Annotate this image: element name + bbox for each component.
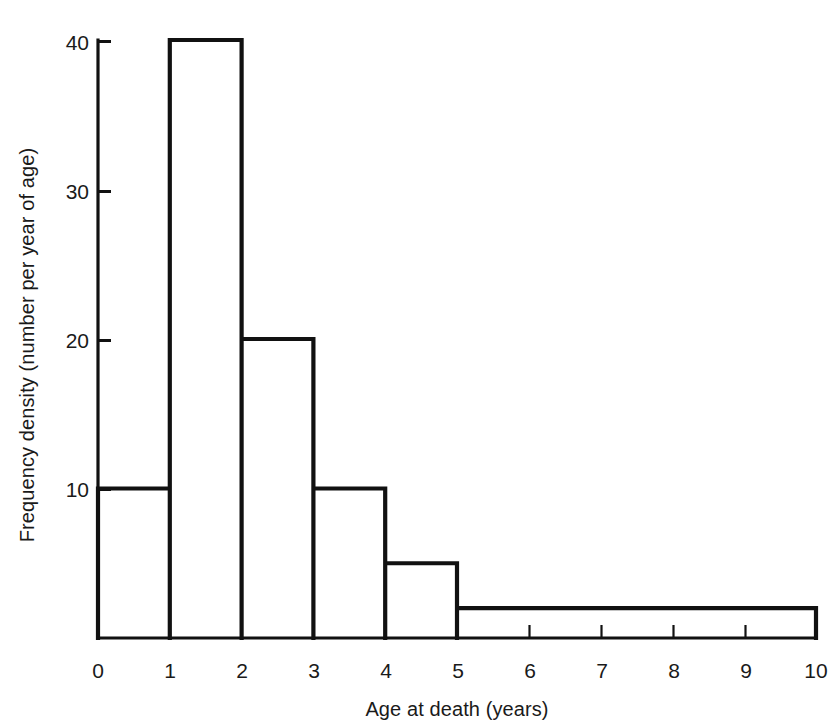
x-axis-tick-labels: 0 1 2 3 4 5 6 7 8 9 10 <box>92 659 828 682</box>
y-axis-title: Frequency density (number per year of ag… <box>16 148 38 542</box>
histogram-figure: 10 20 30 40 0 1 2 3 4 5 6 7 8 9 10 <box>0 0 833 728</box>
y-axis-tick-labels: 10 20 30 40 <box>66 31 89 501</box>
y-tick-label-20: 20 <box>66 329 89 352</box>
x-tick-label-10: 10 <box>804 659 827 682</box>
x-tick-label-7: 7 <box>596 659 608 682</box>
y-axis-ticks <box>98 42 111 490</box>
x-axis-title: Age at death (years) <box>365 698 548 720</box>
x-tick-label-8: 8 <box>668 659 680 682</box>
x-tick-label-4: 4 <box>380 659 392 682</box>
x-tick-label-0: 0 <box>92 659 104 682</box>
chart-canvas: 10 20 30 40 0 1 2 3 4 5 6 7 8 9 10 <box>0 0 833 728</box>
x-tick-label-2: 2 <box>236 659 248 682</box>
y-tick-label-30: 30 <box>66 180 89 203</box>
x-tick-label-5: 5 <box>452 659 464 682</box>
y-tick-label-10: 10 <box>66 478 89 501</box>
x-tick-label-6: 6 <box>524 659 536 682</box>
x-tick-label-3: 3 <box>308 659 320 682</box>
x-tick-label-1: 1 <box>164 659 176 682</box>
x-tick-label-9: 9 <box>740 659 752 682</box>
histogram-outline <box>98 40 816 638</box>
y-tick-label-40: 40 <box>66 31 89 54</box>
x-axis-ticks <box>530 625 746 638</box>
